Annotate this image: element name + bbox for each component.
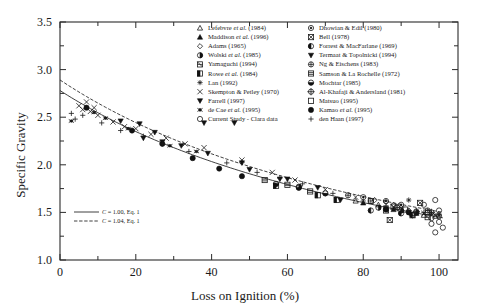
- x-tick-label: 0: [57, 265, 63, 279]
- legend-item-label: Rowe et al. (1984): [208, 70, 257, 78]
- x-tick-label: 60: [281, 265, 293, 279]
- x-tick-label: 80: [357, 265, 369, 279]
- legend-item[interactable]: Al-Khafaji & Andersland (1981): [307, 88, 405, 96]
- legend-item-label: Al-Khafaji & Andersland (1981): [319, 88, 405, 96]
- data-point: [84, 105, 89, 110]
- legend-item[interactable]: Forrest & MacFarlane (1969): [308, 42, 396, 50]
- legend-item[interactable]: Termaat & Topolnicki (1994): [308, 51, 396, 59]
- y-tick-label: 3.5: [37, 15, 52, 29]
- legend-item-label: Mochtar (1985): [319, 79, 361, 87]
- legend-item[interactable]: Maddison et al. (1996): [197, 33, 268, 41]
- legend-item-label: Maddison et al. (1996): [208, 33, 268, 41]
- legend-item-label: Current Study - Clara data: [208, 115, 278, 122]
- legend-item[interactable]: Current Study - Clara data: [197, 115, 277, 122]
- data-point: [129, 128, 134, 133]
- legend-marker-asterisk-icon: [197, 80, 202, 85]
- legend-item-label: Wolski et al. (1985): [208, 51, 261, 59]
- eq-legend-label-1: C = 1.00, Eq. 1: [102, 208, 140, 215]
- legend-item-label: Forrest & MacFarlane (1969): [319, 42, 397, 50]
- legend-item-label: Samson & La Rochelle (1972): [319, 70, 400, 78]
- legend-item-label: Matsuo (1995): [319, 97, 358, 105]
- legend-item-label: Skempton & Petley (1970): [208, 88, 279, 96]
- y-tick-label: 1.0: [37, 253, 52, 267]
- data-point: [239, 174, 244, 179]
- legend-item[interactable]: Skempton & Petley (1970): [197, 88, 278, 96]
- legend-item-label: Farrell (1997): [208, 97, 245, 105]
- legend-marker-circle-cross-icon: [308, 62, 313, 67]
- data-point: [345, 193, 350, 198]
- legend-item-label: de Cae et al. (1995): [208, 106, 260, 114]
- data-point: [190, 156, 195, 161]
- legend-item-label: Kamao et al. (1995): [319, 106, 372, 114]
- legend-item-label: Bell (1978): [319, 33, 349, 41]
- x-axis-title: Loss on Ignition (%): [191, 288, 299, 303]
- legend-item-label: Adams (1965): [208, 42, 246, 50]
- legend-item-label: Ng & Eischens (1983): [319, 60, 378, 68]
- legend-item[interactable]: Lefebvre et al. (1984): [197, 24, 265, 32]
- data-point: [406, 197, 411, 202]
- eq-legend-label-2: C = 1.04, Eq. 1: [102, 217, 140, 224]
- legend-item-label: Yamaguchi (1994): [208, 60, 257, 68]
- y-tick-label: 2.5: [37, 110, 52, 124]
- x-tick-label: 40: [206, 265, 218, 279]
- chart-figure: Specific Gravity Loss on Ignition (%) 1.…: [0, 0, 483, 308]
- legend-item[interactable]: Samson & La Rochelle (1972): [308, 70, 399, 78]
- y-tick-label: 1.5: [37, 205, 52, 219]
- y-tick-label: 3.0: [37, 63, 52, 77]
- y-tick-label: 2.0: [37, 158, 52, 172]
- data-point: [368, 198, 373, 203]
- legend-item-label: Termaat & Topolnicki (1994): [319, 51, 397, 59]
- legend-marker-circle-filled-icon: [308, 107, 313, 112]
- legend-item[interactable]: Dhowian & Edil (1980): [308, 24, 381, 32]
- x-tick-label: 100: [430, 265, 448, 279]
- y-axis-title: Specific Gravity: [13, 112, 28, 198]
- specific-gravity-vs-loi-scatter-plot: Specific Gravity Loss on Ignition (%) 1.…: [0, 0, 483, 308]
- legend-item-label: Lefebvre et al. (1984): [208, 24, 266, 32]
- legend-item-label: Lan (1992): [208, 79, 237, 87]
- x-tick-label: 20: [130, 265, 142, 279]
- legend-item-label: den Haan (1997): [319, 115, 363, 123]
- legend-item-label: Dhowian & Edil (1980): [319, 24, 382, 32]
- data-point: [217, 166, 222, 171]
- legend-item[interactable]: Ng & Eischens (1983): [308, 60, 378, 68]
